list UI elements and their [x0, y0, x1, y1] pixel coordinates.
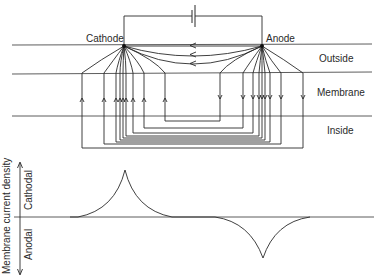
- anode-electrode: [260, 44, 264, 48]
- cathode-label: Cathode: [86, 33, 124, 44]
- battery-circuit: [124, 5, 262, 46]
- region-boundaries: [12, 44, 372, 116]
- membrane-current-loops: [80, 46, 305, 148]
- down-arrows: [218, 95, 305, 99]
- cathodal-label: Cathodal: [23, 170, 34, 210]
- outside-current-lines: [124, 43, 262, 66]
- membrane-current-diagram: Cathode Anode Outside Membrane Inside Me…: [0, 0, 378, 279]
- up-arrows: [80, 98, 167, 102]
- anode-label: Anode: [266, 33, 295, 44]
- anodal-label: Anodal: [23, 229, 34, 260]
- cathode-electrode: [122, 44, 126, 48]
- inside-label: Inside: [327, 125, 354, 136]
- y-axis-label: Membrane current density: [1, 158, 12, 274]
- outside-label: Outside: [319, 53, 354, 64]
- current-density-graph: Membrane current density Cathodal Anodal: [1, 158, 374, 275]
- membrane-label: Membrane: [317, 87, 365, 98]
